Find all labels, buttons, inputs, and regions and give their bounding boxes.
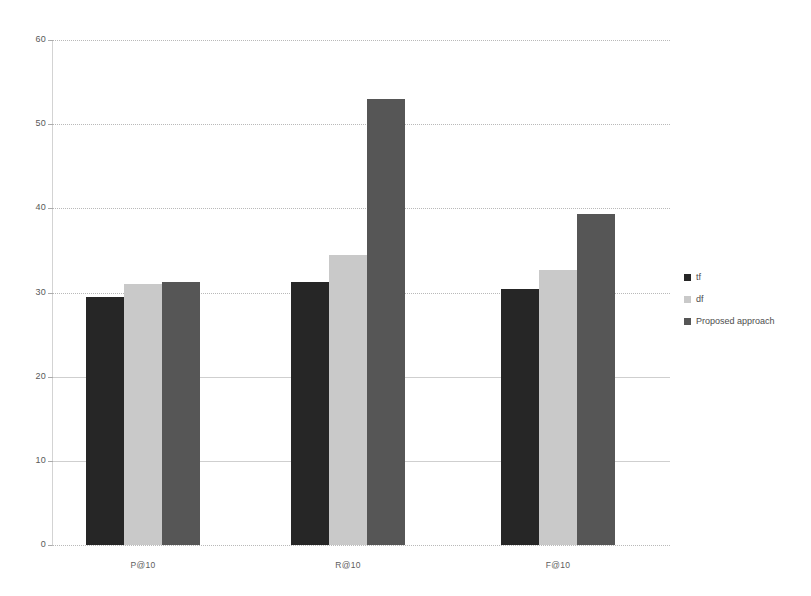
bar-Rat10-df <box>329 255 367 545</box>
legend-swatch-icon <box>684 296 691 303</box>
legend-label: tf <box>696 272 701 282</box>
legend-label: df <box>696 294 704 304</box>
x-tick-label-Rat10: R@10 <box>308 560 388 570</box>
bars-layer <box>52 40 670 545</box>
bar-Fat10-Proposed <box>577 214 615 545</box>
y-tick-label-20: 20 <box>20 372 46 381</box>
y-tick-label-40: 40 <box>20 203 46 212</box>
legend-item-proposed[interactable]: Proposed approach <box>684 310 808 332</box>
y-tick-label-0: 0 <box>20 540 46 549</box>
bar-Rat10-tf <box>291 282 329 545</box>
y-tick-label-50: 50 <box>20 119 46 128</box>
legend-swatch-icon <box>684 274 691 281</box>
bar-Fat10-tf <box>501 289 539 545</box>
x-axis-baseline <box>52 545 670 547</box>
y-tick-label-10: 10 <box>20 456 46 465</box>
bar-chart: 0102030405060 P@10R@10F@10 tfdfProposed … <box>0 0 811 596</box>
legend-item-df[interactable]: df <box>684 288 808 310</box>
y-tick-label-30: 30 <box>20 288 46 297</box>
y-tick-label-60: 60 <box>20 35 46 44</box>
x-tick-label-Pat10: P@10 <box>103 560 183 570</box>
bar-Fat10-df <box>539 270 577 545</box>
legend-item-tf[interactable]: tf <box>684 266 808 288</box>
bar-Rat10-Proposed <box>367 99 405 545</box>
x-tick-label-Fat10: F@10 <box>518 560 598 570</box>
bar-Pat10-df <box>124 284 162 545</box>
plot-area <box>52 40 670 545</box>
legend-swatch-icon <box>684 318 691 325</box>
bar-Pat10-Proposed <box>162 282 200 545</box>
legend-label: Proposed approach <box>696 316 775 326</box>
bar-Pat10-tf <box>86 297 124 545</box>
legend: tfdfProposed approach <box>684 266 808 332</box>
